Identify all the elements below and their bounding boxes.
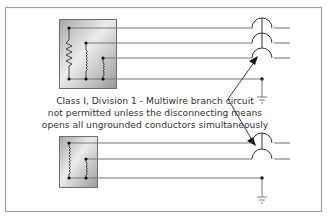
caption-line-3: opens all ungrounded conductors simultan… (42, 119, 269, 130)
caption-line-2: not permitted unless the disconnecting m… (48, 107, 262, 118)
caption-line-1: Class I, Division 1 - Multiwire branch c… (56, 95, 254, 106)
caption: Class I, Division 1 - Multiwire branch c… (42, 95, 269, 130)
bottom-load-panel (60, 137, 98, 188)
multiwire-branch-circuit-diagram: Class I, Division 1 - Multiwire branch c… (0, 0, 329, 218)
